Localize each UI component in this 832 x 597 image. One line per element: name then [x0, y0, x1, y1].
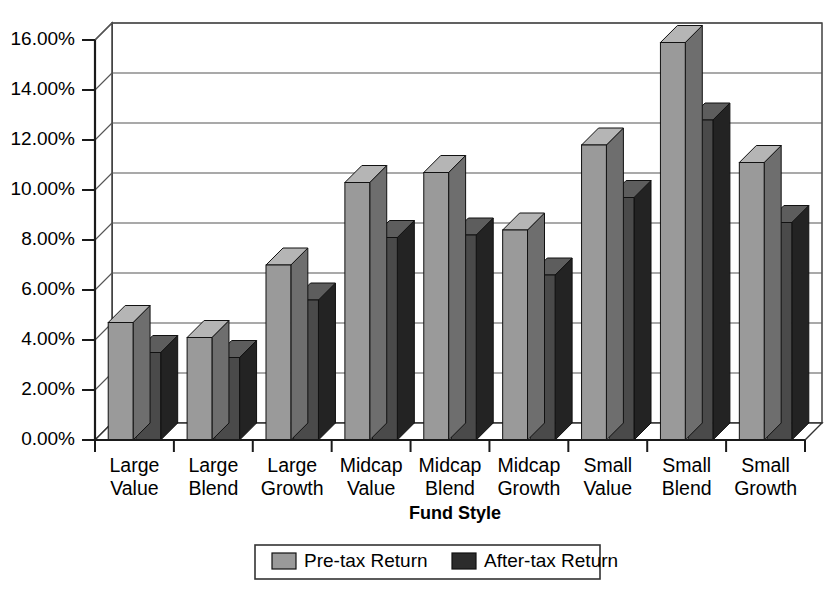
x-axis-title: Fund Style: [409, 503, 501, 523]
x-axis-tick-label: Midcap: [419, 454, 482, 476]
bar-pretax: [424, 156, 466, 441]
x-axis-tick-label: Value: [110, 477, 158, 499]
bar-front-face: [582, 145, 607, 440]
bar-pretax: [660, 26, 702, 441]
x-axis-tick-label: Midcap: [340, 454, 403, 476]
bar-front-face: [266, 265, 291, 440]
x-axis-tick-label: Small: [662, 454, 711, 476]
bar-side-face: [397, 221, 414, 441]
y-axis-tick-label: 12.00%: [11, 128, 76, 149]
x-axis-tick-label: Large: [267, 454, 317, 476]
bar-side-face: [133, 306, 150, 441]
x-axis-tick-label: Growth: [734, 477, 797, 499]
x-axis-tick-label: Blend: [662, 477, 712, 499]
bar-side-face: [476, 218, 493, 440]
x-axis-tick-label: Value: [347, 477, 395, 499]
x-axis-ticks-group: [95, 440, 805, 452]
bar-side-face: [713, 103, 730, 440]
bar-front-face: [424, 173, 449, 441]
x-axis-tick-label: Blend: [425, 477, 475, 499]
bar-pretax: [582, 128, 624, 440]
bar-side-face: [291, 248, 308, 440]
y-axis-tick-label: 16.00%: [11, 28, 76, 49]
bar-front-face: [187, 338, 212, 441]
legend-swatch: [452, 553, 476, 569]
bar-side-face: [634, 181, 651, 441]
x-axis-tick-label: Large: [110, 454, 160, 476]
chart-canvas: 0.00%2.00%4.00%6.00%8.00%10.00%12.00%14.…: [0, 0, 832, 597]
bar-pretax: [266, 248, 308, 440]
bar-side-face: [685, 26, 702, 441]
bar-side-face: [606, 128, 623, 440]
bar-pretax: [187, 321, 229, 441]
y-axis-tick-label: 4.00%: [21, 328, 75, 349]
y-axis-tick-label: 6.00%: [21, 278, 75, 299]
bar-pretax: [345, 166, 387, 441]
bar-side-face: [764, 146, 781, 441]
bar-side-face: [318, 283, 335, 440]
y-axis-tick-label: 0.00%: [21, 428, 75, 449]
y-axis-tick-label: 8.00%: [21, 228, 75, 249]
bar-front-face: [739, 163, 764, 441]
legend-label: Pre-tax Return: [304, 550, 428, 571]
bar-side-face: [370, 166, 387, 441]
x-axis-tick-label: Small: [741, 454, 790, 476]
bar-front-face: [108, 323, 133, 441]
x-axis-tick-label: Growth: [497, 477, 560, 499]
y-axis-tick-label: 2.00%: [21, 378, 75, 399]
bar-front-face: [660, 43, 685, 441]
bar-side-face: [212, 321, 229, 441]
x-axis-tick-label: Large: [188, 454, 238, 476]
bar-side-face: [528, 213, 545, 440]
y-axis-tick-label: 14.00%: [11, 78, 76, 99]
bar-front-face: [345, 183, 370, 441]
bar-side-face: [792, 206, 809, 441]
x-axis-tick-label: Blend: [188, 477, 238, 499]
legend: Pre-tax ReturnAfter-tax Return: [255, 545, 618, 579]
x-axis-tick-label: Small: [583, 454, 632, 476]
x-axis-tick-labels-group: LargeValueLargeBlendLargeGrowthMidcapVal…: [110, 454, 797, 499]
x-axis-tick-label: Midcap: [497, 454, 560, 476]
y-axis-tick-labels-group: 0.00%2.00%4.00%6.00%8.00%10.00%12.00%14.…: [11, 28, 76, 449]
y-axis-ticks-group: [82, 40, 95, 440]
bar-pretax: [503, 213, 545, 440]
bar-chart-figure: 0.00%2.00%4.00%6.00%8.00%10.00%12.00%14.…: [0, 0, 832, 597]
x-axis-tick-label: Growth: [261, 477, 324, 499]
bar-side-face: [161, 336, 178, 441]
bar-front-face: [503, 230, 528, 440]
x-axis-tick-label: Value: [584, 477, 632, 499]
bar-side-face: [449, 156, 466, 441]
bar-pretax: [739, 146, 781, 441]
legend-swatch: [272, 553, 296, 569]
bar-pretax: [108, 306, 150, 441]
legend-label: After-tax Return: [484, 550, 618, 571]
y-axis-tick-label: 10.00%: [11, 178, 76, 199]
bar-side-face: [555, 258, 572, 440]
